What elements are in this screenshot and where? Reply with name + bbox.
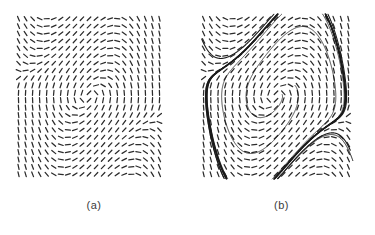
- vector-glyph: [232, 120, 234, 125]
- vector-glyph: [138, 83, 139, 88]
- vector-glyph: [152, 31, 153, 36]
- vector-glyph: [281, 85, 286, 86]
- vector-glyph: [224, 165, 226, 169]
- vector-glyph: [253, 76, 255, 80]
- vector-glyph: [152, 39, 153, 44]
- vector-glyph: [30, 55, 35, 56]
- vector-glyph: [115, 150, 119, 153]
- vector-glyph: [73, 106, 77, 108]
- vector-glyph: [217, 172, 219, 177]
- vector-glyph: [218, 120, 219, 125]
- vector-glyph: [290, 90, 291, 95]
- vector-glyph: [25, 172, 26, 177]
- vector-glyph: [318, 32, 321, 36]
- vector-glyph: [267, 83, 270, 87]
- vector-glyph: [32, 150, 34, 155]
- vector-glyph: [245, 167, 250, 168]
- vector-glyph: [18, 142, 19, 147]
- vector-glyph: [288, 55, 293, 57]
- vector-glyph: [123, 113, 125, 117]
- vector-glyph: [109, 83, 112, 87]
- vector-glyph: [152, 46, 153, 51]
- vector-glyph: [231, 143, 234, 147]
- vector-glyph: [67, 76, 69, 80]
- vector-glyph: [94, 25, 98, 28]
- vector-glyph: [303, 62, 307, 65]
- vector-glyph: [245, 144, 250, 146]
- vector-glyph: [138, 105, 139, 110]
- vector-glyph: [115, 48, 120, 50]
- vector-glyph: [290, 98, 291, 103]
- vector-glyph: [115, 55, 120, 57]
- vector-glyph: [259, 144, 263, 146]
- vector-glyph: [73, 158, 77, 161]
- vector-glyph: [44, 47, 49, 49]
- vector-glyph: [304, 120, 307, 124]
- vector-glyph: [116, 113, 118, 117]
- vector-glyph: [73, 151, 77, 153]
- vector-glyph: [310, 173, 315, 175]
- vector-glyph: [39, 83, 40, 88]
- vector-glyph: [23, 62, 28, 64]
- vector-glyph: [339, 143, 342, 147]
- vector-glyph: [268, 90, 270, 95]
- vector-glyph: [80, 143, 84, 146]
- vector-glyph: [102, 120, 105, 124]
- vector-glyph: [80, 61, 83, 65]
- vector-glyph: [123, 120, 126, 124]
- vector-glyph: [109, 105, 111, 110]
- vector-glyph: [81, 83, 84, 87]
- vector-glyph: [259, 129, 264, 131]
- vector-glyph: [80, 24, 83, 28]
- vector-glyph: [224, 135, 226, 140]
- vector-glyph: [348, 16, 349, 21]
- vector-glyph: [158, 113, 162, 116]
- vector-glyph: [39, 127, 41, 132]
- vector-glyph: [39, 120, 40, 125]
- vector-glyph: [60, 83, 62, 88]
- vector-glyph: [311, 68, 314, 72]
- vector-glyph: [59, 39, 63, 42]
- vector-glyph: [304, 113, 306, 117]
- vector-glyph: [225, 105, 226, 110]
- vector-glyph: [210, 113, 211, 118]
- vector-glyph: [224, 142, 226, 147]
- vector-glyph: [332, 144, 336, 146]
- vector-glyph: [144, 113, 147, 117]
- vector-glyph: [87, 158, 91, 162]
- vector-glyph: [334, 83, 335, 88]
- panel-a-caption: (a): [0, 199, 188, 211]
- vector-glyph: [288, 32, 292, 35]
- vector-glyph: [45, 150, 48, 154]
- vector-glyph: [101, 84, 105, 86]
- vector-glyph: [45, 135, 48, 139]
- vector-glyph: [73, 32, 76, 36]
- vector-glyph: [296, 128, 299, 132]
- vector-glyph: [80, 136, 84, 139]
- vector-glyph: [333, 46, 335, 51]
- vector-glyph: [304, 83, 306, 88]
- vector-glyph: [123, 76, 125, 81]
- vector-glyph: [24, 76, 27, 80]
- vector-glyph: [39, 105, 40, 110]
- vector-glyph: [108, 158, 112, 161]
- vector-glyph: [310, 151, 314, 154]
- vector-glyph: [130, 61, 132, 65]
- vector-glyph: [203, 164, 204, 169]
- vector-glyph: [209, 31, 212, 35]
- vector-glyph: [122, 136, 126, 139]
- vector-glyph: [210, 164, 211, 169]
- vector-glyph: [296, 120, 299, 124]
- vector-glyph: [274, 150, 278, 154]
- vector-glyph: [318, 17, 321, 21]
- vector-glyph: [252, 122, 257, 123]
- vector-glyph: [102, 105, 104, 110]
- vector-glyph: [101, 173, 104, 177]
- vector-glyph: [274, 113, 278, 117]
- vector-glyph: [80, 17, 83, 21]
- vector-glyph: [130, 54, 133, 58]
- vector-glyph: [53, 105, 54, 110]
- vector-glyph: [254, 98, 255, 103]
- vector-glyph: [333, 53, 334, 58]
- vector-glyph: [318, 61, 320, 65]
